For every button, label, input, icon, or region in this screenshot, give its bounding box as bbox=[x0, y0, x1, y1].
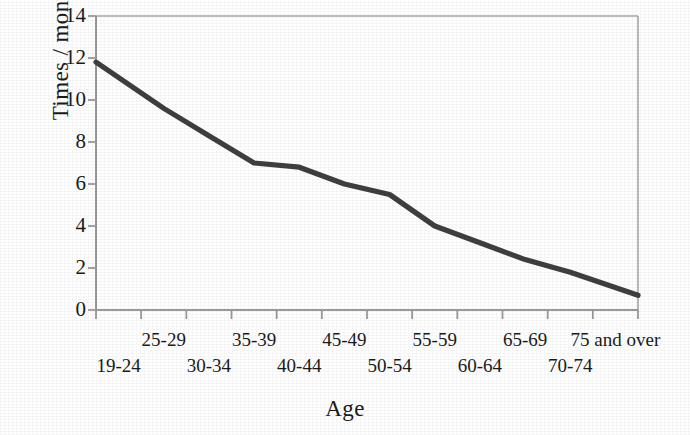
x-tick-label: 35-39 bbox=[232, 330, 276, 349]
x-tick-label: 45-49 bbox=[322, 330, 366, 349]
x-tick-label: 40-44 bbox=[277, 356, 321, 375]
x-tick-label: 60-64 bbox=[458, 356, 502, 375]
x-tick-label: 70-74 bbox=[548, 356, 592, 375]
x-tick-label: 30-34 bbox=[187, 356, 231, 375]
x-tick-label: 55-59 bbox=[413, 330, 457, 349]
x-tick-label: 65-69 bbox=[503, 330, 547, 349]
x-tick-label: 19-24 bbox=[96, 356, 140, 375]
data-line-times-per-month bbox=[96, 62, 638, 295]
line-chart-figure: Times / month 02468101214 19-2425-2930-3… bbox=[0, 0, 690, 435]
x-axis-ticks bbox=[96, 310, 638, 319]
x-tick-label: 50-54 bbox=[367, 356, 411, 375]
x-axis-title: Age bbox=[0, 396, 690, 422]
x-tick-label: 25-29 bbox=[142, 330, 186, 349]
x-tick-label: 75 and over bbox=[571, 330, 661, 349]
